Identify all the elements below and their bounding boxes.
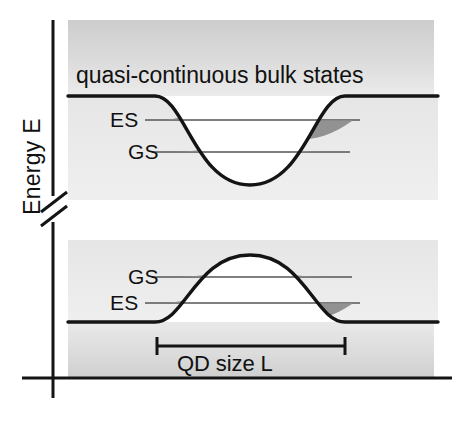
lower-es-label: ES	[110, 291, 138, 314]
lower-gs-label: GS	[128, 265, 159, 288]
upper-es-label: ES	[110, 108, 138, 131]
energy-axis-title: Energy E	[19, 118, 45, 215]
bulk-states-caption: quasi-continuous bulk states	[76, 62, 363, 88]
diagram-canvas: quasi-continuous bulk states ES GS GS ES	[0, 0, 465, 427]
qd-size-caption: QD size L	[177, 351, 273, 376]
quantum-dot-diagram: quasi-continuous bulk states ES GS GS ES	[0, 0, 465, 427]
upper-gs-label: GS	[128, 140, 159, 163]
